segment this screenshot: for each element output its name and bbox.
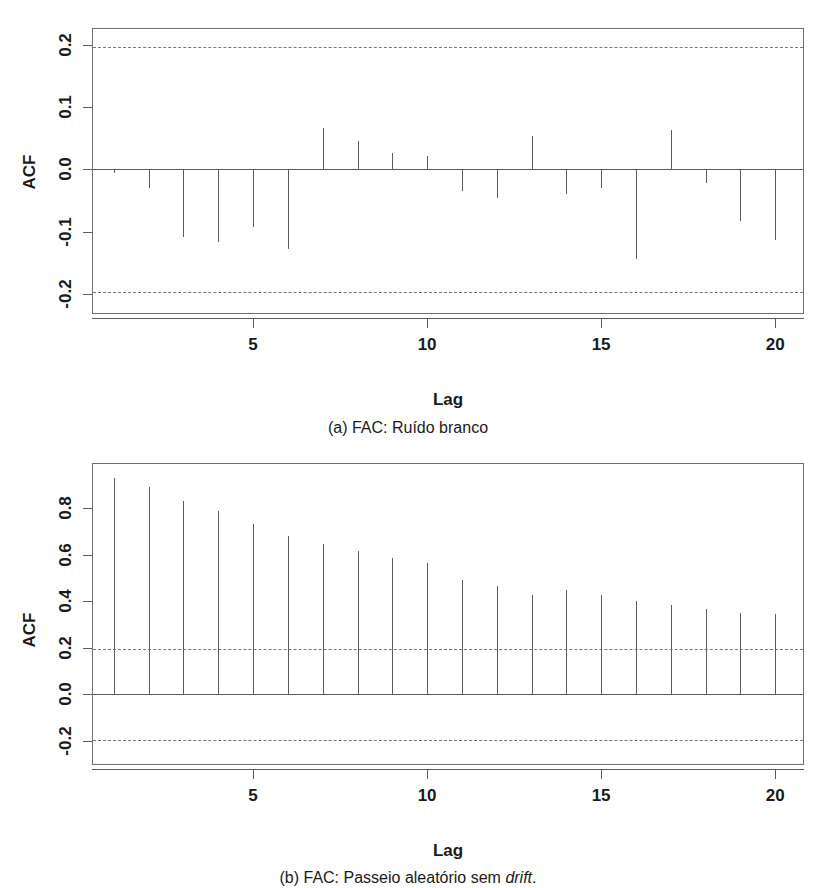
- acf-spike: [323, 128, 324, 169]
- acf-spike: [601, 169, 602, 187]
- acf-spike: [566, 169, 567, 194]
- acf-spike: [775, 614, 776, 694]
- x-tick: [253, 319, 254, 328]
- acf-spike: [218, 511, 219, 695]
- y-tick-label: 0.4: [56, 589, 76, 613]
- y-tick-label: -0.2: [56, 280, 76, 309]
- confidence-band-lower-a: [93, 292, 803, 293]
- acf-spike: [740, 169, 741, 221]
- y-tick: [83, 107, 92, 108]
- acf-spike: [427, 156, 428, 170]
- acf-spike: [253, 169, 254, 227]
- caption-b: (b) FAC: Passeio aleatório sem drift.: [0, 869, 816, 887]
- y-tick: [83, 694, 92, 695]
- y-axis-title-a: ACF: [20, 155, 40, 190]
- acf-spike: [636, 169, 637, 258]
- x-tick-label: 20: [766, 335, 785, 355]
- caption-a: (a) FAC: Ruído branco: [0, 419, 816, 437]
- acf-spike: [462, 580, 463, 694]
- figure-panel-a: ACF 0.20.10.0-0.1-0.2 5101520 Lag (a) FA…: [0, 0, 816, 445]
- x-tick: [601, 770, 602, 779]
- acf-spike: [183, 501, 184, 694]
- x-axis-line-a: [92, 318, 804, 319]
- acf-spike: [427, 563, 428, 694]
- acf-spike: [288, 536, 289, 694]
- x-tick-label: 10: [418, 786, 437, 806]
- y-tick-label: -0.2: [56, 726, 76, 755]
- y-tick: [83, 555, 92, 556]
- acf-spike: [706, 169, 707, 183]
- acf-spike: [253, 524, 254, 694]
- y-tick: [83, 294, 92, 295]
- acf-spike: [358, 141, 359, 170]
- x-axis-line-b: [92, 769, 804, 770]
- acf-spike: [288, 169, 289, 249]
- acf-spike: [392, 153, 393, 170]
- x-tick-label: 5: [248, 786, 257, 806]
- y-axis-title-b: ACF: [20, 613, 40, 648]
- acf-spike: [532, 595, 533, 694]
- acf-spike: [323, 544, 324, 694]
- x-tick: [253, 770, 254, 779]
- y-tick: [83, 169, 92, 170]
- acf-spike: [636, 601, 637, 694]
- acf-spike: [775, 169, 776, 240]
- confidence-band-lower-b: [93, 740, 803, 741]
- figure-page: { "figure": { "panels": [ { "id": "panel…: [0, 0, 816, 888]
- x-tick-label: 15: [592, 786, 611, 806]
- x-tick-label: 20: [766, 786, 785, 806]
- y-tick-label: -0.1: [56, 217, 76, 246]
- y-tick-label: 0.2: [56, 33, 76, 57]
- caption-b-suffix: .: [532, 869, 536, 886]
- x-tick: [601, 319, 602, 328]
- acf-spike: [601, 595, 602, 694]
- acf-spike: [497, 169, 498, 197]
- x-axis-title-a: Lag: [433, 390, 463, 410]
- acf-spike: [149, 487, 150, 694]
- y-tick: [83, 45, 92, 46]
- y-tick-label: 0.8: [56, 496, 76, 520]
- x-tick: [427, 770, 428, 779]
- plot-area-a: [92, 28, 804, 314]
- x-tick-label: 15: [592, 335, 611, 355]
- acf-spike: [358, 551, 359, 694]
- y-tick: [83, 508, 92, 509]
- acf-spike: [532, 136, 533, 169]
- x-tick-label: 10: [418, 335, 437, 355]
- y-tick: [83, 741, 92, 742]
- plot-area-b: [92, 463, 804, 765]
- acf-spike: [740, 613, 741, 694]
- y-tick-label: 0.0: [56, 158, 76, 182]
- caption-b-prefix: (b) FAC: Passeio aleatório sem: [280, 869, 506, 886]
- acf-spike: [671, 130, 672, 169]
- acf-spike: [114, 169, 115, 173]
- acf-spike: [392, 558, 393, 694]
- x-tick: [775, 319, 776, 328]
- y-tick-label: 0.1: [56, 95, 76, 119]
- acf-spike: [149, 169, 150, 188]
- x-tick: [427, 319, 428, 328]
- y-tick: [83, 601, 92, 602]
- confidence-band-upper-b: [93, 649, 803, 650]
- confidence-band-upper-a: [93, 47, 803, 48]
- y-tick-label: 0.6: [56, 543, 76, 567]
- acf-spike: [497, 586, 498, 694]
- y-tick-label: 0.0: [56, 682, 76, 706]
- figure-panel-b: ACF 0.80.60.40.20.0-0.2 5101520 Lag (b) …: [0, 445, 816, 888]
- caption-b-italic: drift: [505, 869, 532, 886]
- zero-line-b: [93, 694, 803, 695]
- acf-spike: [218, 169, 219, 242]
- acf-spike: [462, 169, 463, 191]
- x-axis-title-b: Lag: [433, 841, 463, 861]
- y-tick-label: 0.2: [56, 636, 76, 660]
- acf-spike: [671, 605, 672, 695]
- y-tick: [83, 648, 92, 649]
- x-tick: [775, 770, 776, 779]
- y-tick: [83, 232, 92, 233]
- acf-spike: [114, 478, 115, 694]
- acf-spike: [566, 590, 567, 695]
- acf-spike: [706, 609, 707, 694]
- acf-spike: [183, 169, 184, 236]
- x-tick-label: 5: [248, 335, 257, 355]
- zero-line-a: [93, 169, 803, 170]
